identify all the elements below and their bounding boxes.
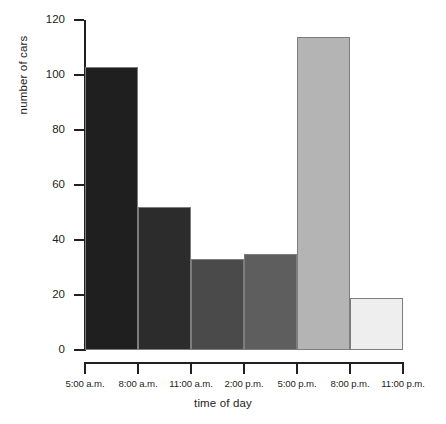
- x-tick-label: 8:00 a.m.: [112, 378, 164, 389]
- x-tick-label: 11:00 p.m.: [377, 378, 429, 389]
- bar[interactable]: [350, 298, 403, 350]
- y-tick-label: 100: [5, 69, 65, 81]
- bar[interactable]: [138, 207, 191, 350]
- y-tick-label: 60: [5, 179, 65, 191]
- y-tick-0: [74, 349, 84, 351]
- x-tick-label: 11:00 a.m.: [165, 378, 217, 389]
- x-tick-5: [349, 362, 351, 374]
- x-tick-1: [137, 362, 139, 374]
- x-tick-label: 5:00 a.m.: [59, 378, 111, 389]
- x-tick-2: [190, 362, 192, 374]
- x-tick-label: 8:00 p.m.: [324, 378, 376, 389]
- y-tick-20: [74, 294, 84, 296]
- bar-chart: number of cars 020406080100120 5:00 a.m.…: [0, 0, 446, 424]
- bar[interactable]: [244, 254, 297, 350]
- x-tick-4: [296, 362, 298, 374]
- y-tick-40: [74, 239, 84, 241]
- y-tick-label: 0: [5, 344, 65, 356]
- bar[interactable]: [85, 67, 138, 350]
- y-tick-label: 20: [5, 289, 65, 301]
- x-tick-label: 5:00 p.m.: [271, 378, 323, 389]
- plot-area: [85, 20, 403, 350]
- y-tick-100: [74, 74, 84, 76]
- x-tick-3: [243, 362, 245, 374]
- y-tick-label: 120: [5, 14, 65, 26]
- x-axis-label: time of day: [0, 397, 446, 409]
- y-tick-120: [74, 19, 84, 21]
- x-tick-0: [84, 362, 86, 374]
- bar[interactable]: [297, 37, 350, 351]
- y-tick-label: 40: [5, 234, 65, 246]
- x-tick-label: 2:00 p.m.: [218, 378, 270, 389]
- x-tick-6: [402, 362, 404, 374]
- y-tick-label: 80: [5, 124, 65, 136]
- y-tick-80: [74, 129, 84, 131]
- y-tick-60: [74, 184, 84, 186]
- bar[interactable]: [191, 259, 244, 350]
